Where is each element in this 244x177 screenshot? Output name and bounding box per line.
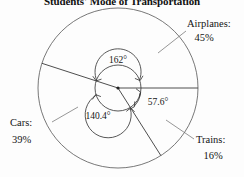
- label-trains-value: 16%: [203, 150, 223, 161]
- chart-canvas: Airplanes: 45% Cars: 39% Trains: 16% 162…: [0, 0, 244, 177]
- leader-line-cars: [52, 107, 78, 122]
- angle-arrow-trains-end: [136, 89, 141, 98]
- label-airplanes-value: 45%: [194, 32, 214, 43]
- label-cars-value: 39%: [12, 134, 32, 145]
- angle-label-trains: 57.6°: [148, 97, 169, 107]
- pie-chart-figure: Students' Mode of Transportation: [0, 0, 244, 177]
- angle-label-cars: 140.4°: [85, 111, 110, 121]
- sector-boundary-upper-left: [42, 63, 118, 88]
- label-airplanes-name: Airplanes:: [187, 18, 231, 29]
- angle-label-airplanes: 162°: [109, 55, 127, 65]
- label-cars-name: Cars:: [10, 117, 32, 128]
- leader-line-airplanes: [158, 31, 186, 53]
- center-point: [116, 86, 119, 89]
- label-trains-name: Trains:: [196, 134, 225, 145]
